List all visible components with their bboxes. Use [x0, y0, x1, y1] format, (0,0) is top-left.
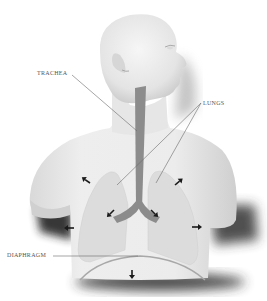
- trachea-label: TRACHEA: [37, 70, 67, 76]
- torso: [30, 115, 237, 280]
- diaphragm-label: DIAPHRAGM: [7, 252, 46, 258]
- lungs-label: LUNGS: [203, 100, 225, 106]
